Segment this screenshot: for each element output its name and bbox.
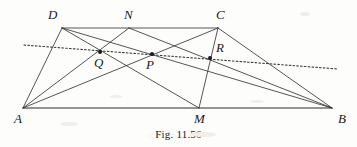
point-label-a: A	[14, 112, 22, 125]
cevian-DM	[62, 28, 199, 108]
cevian-AN	[23, 28, 129, 108]
figure-caption: Fig. 11.56	[0, 128, 357, 140]
point-dot-p	[150, 52, 154, 56]
segments-group	[23, 28, 332, 108]
point-label-c: C	[216, 8, 225, 21]
geometry-diagram	[0, 0, 357, 147]
figure-container: DNCQPRAMB Fig. 11.56	[0, 0, 357, 147]
point-label-r: R	[216, 41, 224, 54]
point-label-p: P	[146, 58, 154, 71]
point-label-d: D	[48, 8, 57, 21]
point-label-m: M	[194, 112, 205, 125]
point-dot-r	[208, 56, 212, 60]
diagonal-AC	[23, 28, 218, 108]
point-label-n: N	[124, 8, 133, 21]
side-AD	[23, 28, 62, 108]
side-CB	[218, 28, 332, 108]
point-label-q: Q	[94, 56, 103, 69]
point-label-b: B	[338, 112, 346, 125]
point-dot-q	[98, 50, 102, 54]
cevian-NB	[129, 28, 332, 108]
